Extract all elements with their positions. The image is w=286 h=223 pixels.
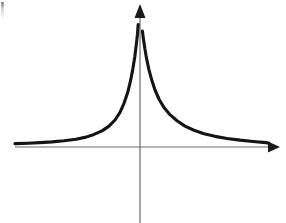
y-axis-arrow-icon	[135, 4, 146, 18]
curve-left-branch	[15, 24, 138, 143]
figure-root	[0, 0, 286, 223]
curve-group	[15, 24, 269, 143]
graph-canvas	[0, 0, 286, 223]
axes-group	[15, 4, 280, 223]
curve-right-branch	[142, 31, 269, 143]
